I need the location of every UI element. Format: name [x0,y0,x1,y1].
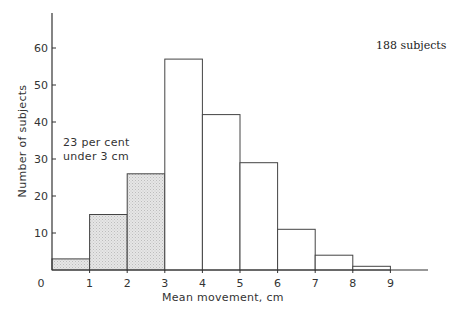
y-tick-label: 60 [34,42,48,55]
x-tick-label: 8 [349,277,356,290]
histogram-chart: 102030405060 123456789 0 Mean movement, … [0,0,450,310]
histogram-bar [278,229,316,270]
y-tick-label: 50 [34,79,48,92]
x-tick-label: 3 [161,277,168,290]
x-tick-label: 2 [124,277,131,290]
histogram-bar [90,215,128,271]
histogram-bar [52,259,90,270]
histogram-bars [52,59,390,270]
histogram-bar [127,174,165,270]
histogram-bar [165,59,203,270]
histogram-bar [315,255,353,270]
total-subjects-label: 188 subjects [376,39,447,52]
x-tick-label: 4 [199,277,206,290]
histogram-bar [202,115,240,270]
y-tick-label: 10 [34,227,48,240]
x-tick-label: 6 [274,277,281,290]
x-axis-ticks: 123456789 [86,270,394,290]
x-tick-label: 9 [387,277,394,290]
y-tick-label: 40 [34,116,48,129]
x-axis-label: Mean movement, cm [162,291,284,304]
y-tick-label: 20 [34,190,48,203]
y-tick-label: 30 [34,153,48,166]
y-axis-label: Number of subjects [16,85,29,198]
y-axis-ticks: 102030405060 [34,42,56,240]
origin-label: 0 [38,277,45,290]
annotation-under: under 3 cm [63,150,129,163]
histogram-bar [240,163,278,270]
x-tick-label: 7 [312,277,319,290]
annotation-percent: 23 per cent [63,136,130,149]
x-tick-label: 5 [237,277,244,290]
x-tick-label: 1 [86,277,93,290]
